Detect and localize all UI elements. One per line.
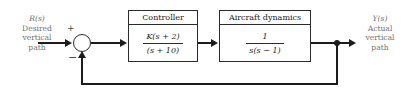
- wire-feedback-horizontal: [81, 83, 338, 85]
- summing-junction: [73, 34, 91, 52]
- controller-denominator: (s + 10): [143, 45, 182, 56]
- aircraft-fraction-bar: [246, 43, 283, 44]
- controller-transfer-function: K(s + 2) (s + 10): [129, 25, 197, 61]
- wire-feedback-vertical-right: [336, 42, 338, 85]
- controller-block-title: Controller: [129, 11, 197, 25]
- plus-sign-label: +: [67, 24, 75, 33]
- aircraft-dynamics-block: Aircraft dynamics 1 s(s − 1): [219, 10, 311, 62]
- arrowhead-input-to-sum: [65, 39, 72, 47]
- input-label-line1: Desired: [22, 24, 52, 33]
- arrowhead-feedback-to-sum: [78, 51, 86, 58]
- output-signal-name: Y(s): [373, 14, 388, 23]
- aircraft-transfer-function: 1 s(s − 1): [220, 25, 310, 61]
- input-signal-label: R(s) Desired vertical path: [6, 14, 68, 52]
- wire-input-to-sum: [38, 42, 66, 44]
- output-label-line3: path: [371, 43, 388, 52]
- aircraft-numerator: 1: [246, 31, 283, 42]
- output-label-line2: vertical: [365, 33, 394, 42]
- aircraft-block-title: Aircraft dynamics: [220, 11, 310, 25]
- input-label-line3: path: [28, 43, 45, 52]
- wire-feedback-vertical-left: [81, 58, 83, 85]
- output-signal-label: Y(s) Actual vertical path: [352, 14, 408, 52]
- wire-sum-to-controller: [91, 42, 121, 44]
- block-diagram: R(s) Desired vertical path + − Controlle…: [0, 0, 410, 92]
- arrowhead-controller-to-aircraft: [211, 39, 218, 47]
- wire-aircraft-to-output: [311, 42, 352, 44]
- input-signal-name: R(s): [29, 14, 45, 23]
- controller-block: Controller K(s + 2) (s + 10): [128, 10, 198, 62]
- input-label-line2: vertical: [22, 33, 51, 42]
- minus-sign-label: −: [68, 53, 77, 62]
- arrowhead-sum-to-controller: [120, 39, 127, 47]
- controller-fraction-bar: [143, 43, 182, 44]
- output-label-line1: Actual: [368, 24, 393, 33]
- aircraft-denominator: s(s − 1): [246, 45, 283, 56]
- controller-numerator: K(s + 2): [143, 31, 182, 42]
